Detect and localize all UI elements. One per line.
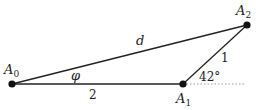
label-a2: A2 xyxy=(235,3,251,20)
label-phi: φ xyxy=(71,68,81,83)
point-a1 xyxy=(179,80,186,87)
label-a0: A0 xyxy=(3,62,19,79)
label-arm-length: 1 xyxy=(221,51,229,65)
triangle-diagram: A0 A1 A2 d 2 1 φ 42° xyxy=(0,0,258,110)
label-d: d xyxy=(136,33,144,48)
point-a2 xyxy=(243,21,250,28)
point-a0 xyxy=(8,80,15,87)
label-angle-42: 42° xyxy=(199,70,220,84)
label-base-length: 2 xyxy=(89,88,97,102)
label-a1: A1 xyxy=(175,91,191,108)
